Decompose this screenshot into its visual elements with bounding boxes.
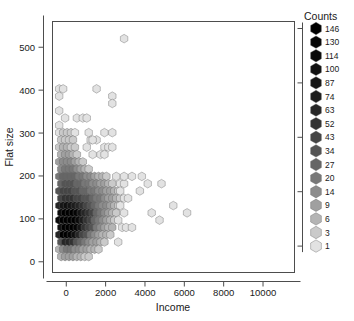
- hexbin-cell: [101, 150, 108, 159]
- hexbin-cell: [83, 143, 90, 152]
- hexbin-cell: [71, 143, 78, 152]
- legend-label: 146: [325, 24, 339, 34]
- y-tick-label: 300: [19, 128, 35, 139]
- legend-label: 6: [325, 214, 330, 224]
- legend-label: 9: [325, 200, 330, 210]
- hexbin-cell: [85, 165, 92, 174]
- hexbin-cell: [55, 106, 62, 115]
- legend-label: 130: [325, 37, 339, 47]
- hexbin-cell: [114, 216, 121, 225]
- hexbin-cell: [93, 85, 100, 94]
- hexbin-chart: 0200040006000800010000 0100200300400500 …: [0, 0, 354, 321]
- hexbin-cell: [128, 223, 135, 232]
- hexbin-cell: [59, 85, 66, 94]
- hexbin-cell: [144, 179, 151, 188]
- y-tick-label: 500: [19, 42, 35, 53]
- hexbin-cell: [83, 114, 90, 123]
- hexbin-cell: [109, 143, 116, 152]
- hexbin-cell: [107, 230, 114, 239]
- hexbin-cell: [148, 209, 155, 218]
- hexbin-cell: [156, 216, 163, 225]
- hexbin-cell: [71, 128, 78, 137]
- x-tick-label: 10000: [250, 287, 276, 298]
- legend-label: 114: [325, 51, 339, 61]
- x-tick-label: 4000: [134, 287, 155, 298]
- hexbin-cell: [124, 194, 131, 203]
- legend-label: 52: [325, 119, 335, 129]
- hexbin-cell: [170, 201, 177, 210]
- x-tick-label: 8000: [213, 287, 234, 298]
- legend-label: 43: [325, 132, 335, 142]
- legend-title: Counts: [304, 10, 337, 22]
- legend-label: 20: [325, 173, 335, 183]
- hexbin-cell: [183, 209, 190, 218]
- x-axis-title: Income: [156, 301, 191, 313]
- hexbin-cell: [113, 209, 120, 218]
- hexbin-cell: [158, 179, 165, 188]
- hexbin-cell: [95, 245, 102, 254]
- legend-label: 3: [325, 228, 330, 238]
- hexbin-cell: [89, 136, 96, 145]
- y-tick-label: 100: [19, 213, 35, 224]
- hexbin-cell: [61, 114, 68, 123]
- legend-label: 100: [325, 64, 339, 74]
- hexbin-cell: [120, 209, 127, 218]
- hexbin-cell: [116, 187, 123, 196]
- hexbin-cell: [55, 92, 62, 101]
- x-tick-label: 6000: [174, 287, 195, 298]
- hexbin-cell: [103, 172, 110, 181]
- hexbin-cell: [120, 172, 127, 181]
- hexbin-cell: [114, 238, 121, 247]
- hexbin-cell: [89, 150, 96, 159]
- hexbin-cell: [101, 238, 108, 247]
- x-tick-label: 2000: [95, 287, 116, 298]
- hexbin-cell: [120, 34, 127, 43]
- hexbin-cell: [85, 252, 92, 261]
- legend-label: 14: [325, 187, 335, 197]
- hexbin-cell: [73, 150, 80, 159]
- hexbin-cell: [109, 99, 116, 108]
- hexbin-cell: [113, 172, 120, 181]
- legend-label: 63: [325, 105, 335, 115]
- hexbin-cell: [128, 172, 135, 181]
- hexbin-cell: [79, 158, 86, 167]
- y-tick-label: 0: [30, 256, 35, 267]
- hexbin-cell: [85, 128, 92, 137]
- y-tick-label: 400: [19, 85, 35, 96]
- hexbin-cell: [138, 172, 145, 181]
- hexbin-cell: [116, 201, 123, 210]
- legend-label: 87: [325, 78, 335, 88]
- hexbin-cell: [136, 187, 143, 196]
- y-tick-label: 200: [19, 170, 35, 181]
- legend-label: 1: [325, 241, 330, 251]
- legend-label: 34: [325, 146, 335, 156]
- legend-label: 74: [325, 92, 335, 102]
- y-axis-title: Flat size: [3, 127, 15, 166]
- x-tick-label: 0: [64, 287, 69, 298]
- legend-label: 27: [325, 160, 335, 170]
- hexbin-cell: [69, 136, 76, 145]
- hexbin-cell: [109, 223, 116, 232]
- chart-canvas: 0200040006000800010000 0100200300400500 …: [0, 0, 354, 321]
- hexbin-cell: [101, 128, 108, 137]
- hexbin-cell: [109, 179, 116, 188]
- hexbin-cell: [109, 128, 116, 137]
